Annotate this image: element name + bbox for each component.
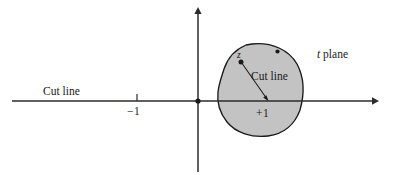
x-axis-arrowhead-icon xyxy=(372,97,379,105)
y-axis-arrowhead-icon xyxy=(194,7,201,14)
axis-tick-label-minus-one: −1 xyxy=(127,106,140,118)
contour-boundary-marker xyxy=(275,49,279,53)
plane-label-variable: t xyxy=(317,48,320,60)
origin-point-marker xyxy=(195,98,200,103)
point-z-label: z xyxy=(237,51,241,61)
figure-t-plane: Cut line −1 z Cut line +1 t plane xyxy=(0,0,393,175)
point-plus-one-label: +1 xyxy=(256,108,269,120)
cut-line-inner-label: Cut line xyxy=(251,71,288,83)
cut-line-left-label: Cut line xyxy=(43,86,80,98)
plane-label-word: plane xyxy=(323,48,348,60)
plane-label: t plane xyxy=(317,49,348,61)
